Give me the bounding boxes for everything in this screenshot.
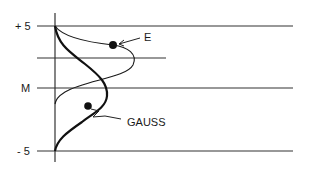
mean-label: M bbox=[21, 82, 30, 94]
gauss-curve-label: GAUSS bbox=[127, 116, 166, 128]
minus-five-label: - 5 bbox=[17, 145, 30, 157]
e-curve-label: E bbox=[144, 31, 151, 43]
e-point-marker bbox=[109, 41, 117, 49]
gauss-point-marker bbox=[84, 102, 92, 110]
gauss-pointer-zigzag bbox=[91, 109, 121, 119]
gauss-label-text: GAUSS bbox=[127, 116, 166, 128]
plus-five-label: + 5 bbox=[15, 20, 31, 32]
e-curve bbox=[55, 26, 134, 104]
distribution-diagram: + 5 M - 5 E GAUSS bbox=[0, 0, 309, 172]
